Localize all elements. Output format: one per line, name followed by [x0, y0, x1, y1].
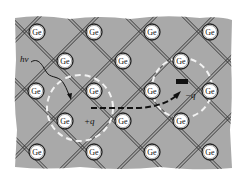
- ge-atom-label: Ge: [32, 28, 42, 37]
- ge-atom-label: Ge: [89, 28, 99, 37]
- ge-atom-label: Ge: [176, 117, 186, 126]
- photon-label: hν: [20, 54, 29, 64]
- ge-atom-label: Ge: [147, 87, 157, 96]
- ge-atom-label: Ge: [176, 57, 186, 66]
- ge-atom: Ge: [202, 24, 218, 40]
- ge-atom-label: Ge: [147, 148, 157, 157]
- ge-atom: Ge: [86, 24, 102, 40]
- ge-lattice-diagram: GeGeGeGeGeGeGeGeGeGeGeGeGeGeGeGeGeGe hν …: [0, 0, 244, 180]
- ge-atom-label: Ge: [89, 87, 99, 96]
- ge-atom: Ge: [115, 113, 131, 129]
- ge-atom-label: Ge: [205, 148, 215, 157]
- ge-atom-label: Ge: [205, 28, 215, 37]
- ge-atom: Ge: [173, 53, 189, 69]
- ge-atom: Ge: [144, 83, 160, 99]
- electron-icon: [176, 79, 188, 84]
- ge-atom: Ge: [173, 113, 189, 129]
- ge-atom: Ge: [28, 83, 44, 99]
- ge-atom: Ge: [57, 113, 73, 129]
- ge-atom-label: Ge: [32, 148, 42, 157]
- ge-atom-label: Ge: [89, 148, 99, 157]
- ge-atom: Ge: [29, 144, 45, 160]
- ge-atom: Ge: [202, 83, 218, 99]
- ge-atom: Ge: [86, 144, 102, 160]
- ge-atom: Ge: [57, 53, 73, 69]
- ge-atom: Ge: [144, 24, 160, 40]
- ge-atom-label: Ge: [60, 117, 70, 126]
- ge-atom-label: Ge: [205, 87, 215, 96]
- ge-atom-label: Ge: [60, 57, 70, 66]
- ge-atom: Ge: [115, 53, 131, 69]
- ge-atom: Ge: [144, 144, 160, 160]
- ge-atom-label: Ge: [31, 87, 41, 96]
- ge-atom: Ge: [202, 144, 218, 160]
- hole-charge-label: +q: [84, 116, 95, 126]
- electron-charge-label: −q: [185, 90, 196, 100]
- ge-atom-label: Ge: [118, 57, 128, 66]
- ge-atom-label: Ge: [147, 28, 157, 37]
- ge-atom: Ge: [29, 24, 45, 40]
- ge-atom-label: Ge: [118, 117, 128, 126]
- ge-atom: Ge: [86, 83, 102, 99]
